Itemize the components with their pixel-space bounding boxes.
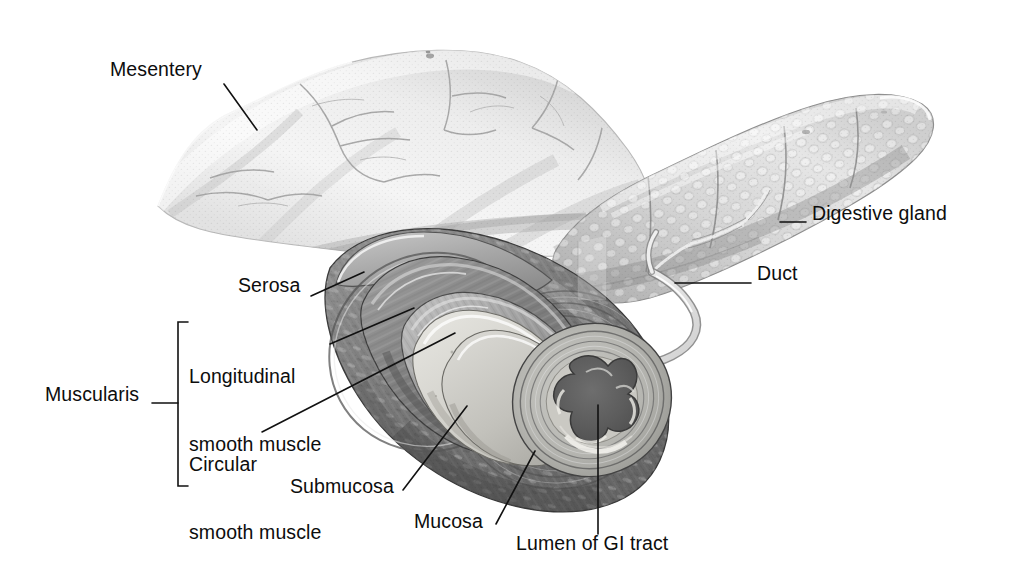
label-longitudinal-line1: Longitudinal: [189, 365, 321, 388]
label-serosa: Serosa: [238, 274, 300, 297]
label-circular-line2: smooth muscle: [189, 521, 321, 544]
label-circular-line1: Circular: [189, 453, 321, 476]
label-muscularis: Muscularis: [45, 383, 139, 406]
gi-tract-anatomy-illustration: [0, 0, 1009, 586]
label-digestive-gland: Digestive gland: [812, 202, 947, 225]
label-mesentery: Mesentery: [110, 58, 202, 81]
label-submucosa: Submucosa: [290, 475, 394, 498]
label-duct: Duct: [757, 262, 798, 285]
label-lumen-of-gi-tract: Lumen of GI tract: [516, 532, 668, 555]
label-mucosa: Mucosa: [414, 510, 483, 533]
